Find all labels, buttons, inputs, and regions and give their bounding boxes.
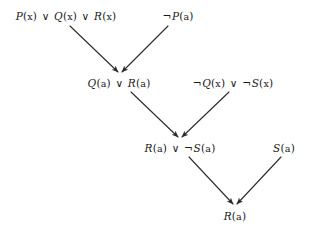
resolution-edge-c1-to-c3 [70,26,118,72]
resolution-edge-c2-to-c3 [122,26,168,72]
clause-node-c6: S(a) [273,143,295,154]
clause-node-c7: R(a) [224,211,247,222]
clause-node-c2: ¬P(a) [162,11,193,22]
resolution-edge-c5-to-c7 [189,157,233,204]
clause-node-c4: ¬Q(x) ∨ ¬S(x) [193,78,274,89]
resolution-edge-c6-to-c7 [237,157,281,204]
clause-node-c3: Q(a) ∨ R(a) [88,78,151,89]
edge-layer [0,0,315,239]
resolution-edges [70,26,281,204]
clause-node-c5: R(a) ∨ ¬S(a) [145,143,216,154]
resolution-edge-c3-to-c5 [131,92,178,137]
resolution-edge-c4-to-c5 [182,92,229,137]
proof-tree-diagram: P(x) ∨ Q(x) ∨ R(x)¬P(a)Q(a) ∨ R(a)¬Q(x) … [0,0,315,239]
clause-node-c1: P(x) ∨ Q(x) ∨ R(x) [16,11,117,22]
